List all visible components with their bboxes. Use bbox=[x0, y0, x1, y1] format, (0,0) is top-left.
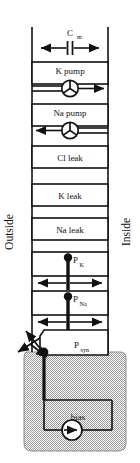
p-na-subscript: Na bbox=[80, 300, 87, 307]
capacitor-icon bbox=[68, 41, 73, 55]
k-pump-rotor-icon bbox=[62, 80, 78, 96]
branch-p-na[interactable]: P Na bbox=[32, 291, 108, 330]
na-pump-label: Na pump bbox=[53, 108, 87, 118]
na-leak-label: Na leak bbox=[56, 225, 84, 235]
na-pump-rotor-icon bbox=[62, 122, 78, 138]
bias-current-source-icon bbox=[62, 420, 82, 440]
k-pump-label: K pump bbox=[55, 66, 85, 76]
k-leak-label: K leak bbox=[58, 191, 82, 201]
p-k-label: P bbox=[73, 255, 78, 265]
p-syn-label: P bbox=[74, 340, 79, 350]
branch-na-leak[interactable]: Na leak bbox=[32, 218, 108, 240]
p-na-label: P bbox=[73, 294, 78, 304]
branch-k-leak[interactable]: K leak bbox=[32, 184, 108, 206]
cm-subscript: m bbox=[77, 33, 82, 40]
branch-p-k[interactable]: P K bbox=[32, 252, 108, 290]
diagram-canvas: C m K pump bbox=[0, 0, 140, 463]
p-k-subscript: K bbox=[80, 261, 85, 268]
cm-label: C bbox=[67, 28, 73, 38]
side-label-inside: Inside bbox=[120, 218, 132, 246]
neuron-circuit-diagram: C m K pump bbox=[0, 0, 140, 463]
branch-cl-leak[interactable]: Cl leak bbox=[32, 146, 108, 168]
side-label-outside: Outside bbox=[3, 214, 15, 250]
cl-leak-label: Cl leak bbox=[57, 153, 83, 163]
p-syn-subscript: syn bbox=[81, 346, 90, 353]
branch-na-pump[interactable]: Na pump bbox=[32, 104, 108, 139]
branch-k-pump[interactable]: K pump bbox=[32, 62, 108, 97]
branch-cm[interactable]: C m bbox=[41, 28, 99, 55]
